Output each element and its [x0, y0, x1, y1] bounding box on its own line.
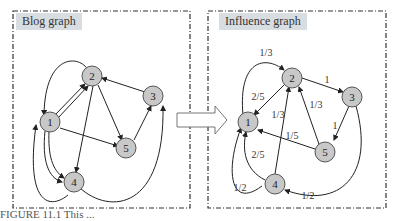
edge-label: 1/3: [272, 109, 285, 120]
right-node-4-label: 4: [272, 178, 278, 190]
left-node-2-label: 2: [89, 70, 95, 82]
left-node-4-label: 4: [71, 176, 77, 188]
edge-label: 1/2: [302, 190, 315, 201]
diagram-canvas: 1 2 3 4 5 1 2 3 4 5 1/3 2/5 1 1/3 1: [0, 0, 399, 221]
left-node-1-label: 1: [47, 116, 53, 128]
transform-arrow-icon: [177, 106, 227, 134]
right-node-1-label: 1: [245, 116, 251, 128]
figure-caption: FIGURE 11.1 This ...: [0, 208, 94, 220]
edge-label: 1/3: [310, 99, 323, 110]
edge-label: 1/3: [260, 47, 273, 58]
right-node-2-label: 2: [289, 72, 295, 84]
edge-label: 1: [325, 74, 330, 85]
right-node-3-label: 3: [349, 91, 355, 103]
edge-label: 1/2: [234, 182, 247, 193]
right-node-5-label: 5: [322, 146, 328, 158]
right-panel-border: [208, 11, 386, 208]
edge-label: 2/5: [252, 149, 265, 160]
edge-label: 2/5: [252, 91, 265, 102]
edge-label: 1/5: [286, 130, 299, 141]
edge-label: 1: [333, 120, 338, 131]
left-node-5-label: 5: [123, 142, 129, 154]
left-node-3-label: 3: [150, 90, 156, 102]
